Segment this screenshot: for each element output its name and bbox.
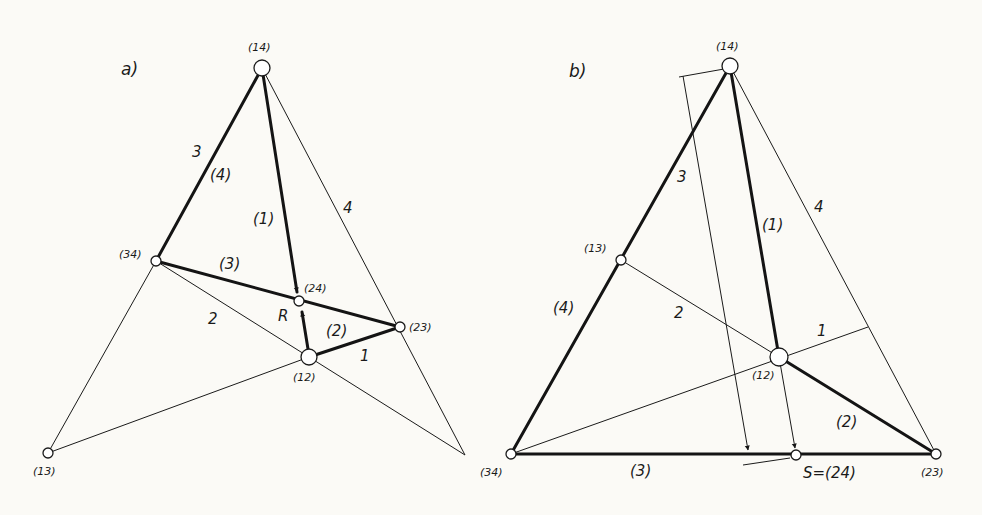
label-edge-4: 4 [814, 198, 824, 216]
label-edge-3: 3 [192, 143, 202, 161]
label-node-14: (14) [248, 41, 271, 54]
panel-a: a) (14) (34) (24) (23) (12) (13) 3 (4) (… [33, 41, 465, 478]
label-node-24: (24) [304, 282, 327, 295]
label-edge-1: 1 [360, 347, 370, 365]
construction-tick-top [679, 69, 724, 77]
label-node-S-24: S=(24) [803, 464, 856, 482]
label-point-R: R [278, 307, 288, 325]
label-edge-2: 2 [674, 304, 684, 322]
bar-1 [730, 66, 779, 357]
label-node-12: (12) [293, 371, 316, 384]
line-1 [511, 327, 868, 454]
line-34-13 [48, 261, 156, 453]
label-edge-2-paren: (2) [836, 413, 857, 431]
label-node-14: (14) [716, 40, 739, 53]
label-edge-3-paren: (3) [219, 255, 240, 273]
label-node-23: (23) [921, 466, 944, 479]
line-4 [730, 66, 936, 454]
bar-3 [156, 68, 262, 261]
bar-2 [779, 357, 936, 454]
panel-b-title: b) [569, 61, 586, 81]
label-edge-3: 3 [677, 168, 687, 186]
label-node-13: (13) [584, 242, 607, 255]
label-edge-2-paren: (2) [326, 322, 347, 340]
node-34 [151, 256, 161, 266]
node-14 [254, 60, 270, 76]
node-13 [616, 255, 626, 265]
node-13 [43, 448, 53, 458]
construction-tick-bottom [743, 458, 790, 465]
node-34 [506, 449, 516, 459]
label-edge-4-paren: (4) [553, 299, 574, 317]
node-12 [770, 348, 788, 366]
label-edge-1-paren: (1) [762, 216, 783, 234]
node-14 [722, 58, 738, 74]
panel-a-title: a) [121, 59, 138, 79]
label-edge-2: 2 [208, 310, 218, 328]
label-edge-4-paren: (4) [210, 166, 231, 184]
label-edge-4: 4 [343, 199, 353, 217]
node-S-24 [791, 450, 801, 460]
node-23 [931, 449, 941, 459]
label-node-12: (12) [752, 369, 775, 382]
label-edge-1-paren: (1) [253, 210, 274, 228]
arrow-12-S [779, 357, 795, 448]
label-edge-3-paren: (3) [630, 462, 651, 480]
line-13-12 [48, 357, 309, 453]
label-node-34: (34) [119, 248, 142, 261]
node-24 [294, 296, 304, 306]
node-12 [301, 349, 317, 365]
label-node-13: (13) [33, 465, 56, 478]
arrow-R [302, 312, 308, 349]
label-edge-1: 1 [817, 322, 827, 340]
diagram-canvas: a) (14) (34) (24) (23) (12) (13) 3 (4) (… [0, 0, 982, 515]
label-node-23: (23) [409, 321, 432, 334]
panel-b: b) (14) (13) (12) (34) (23) S=(24) 3 (1)… [480, 40, 944, 482]
label-node-34: (34) [480, 466, 503, 479]
line-2 [621, 260, 779, 357]
node-23 [395, 322, 405, 332]
bar-12-23 [309, 327, 400, 357]
